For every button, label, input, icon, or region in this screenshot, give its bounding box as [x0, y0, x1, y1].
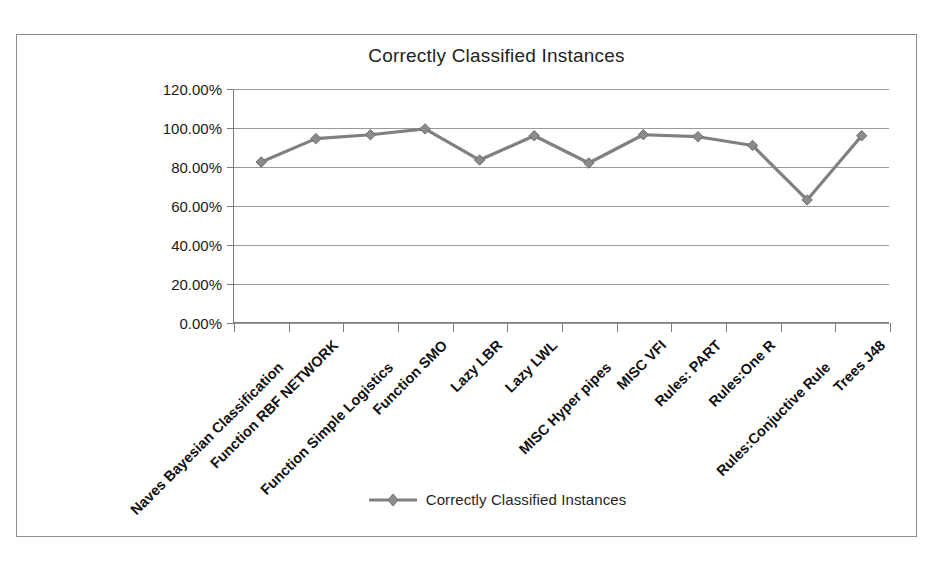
x-axis-tick	[890, 323, 891, 332]
chart-legend: Correctly Classified Instances	[17, 491, 916, 508]
x-axis-tick	[289, 323, 290, 332]
chart-frame: Correctly Classified Instances 120.00%10…	[16, 34, 917, 537]
x-axis-tick	[453, 323, 454, 332]
x-axis-tick	[234, 323, 235, 332]
y-axis-tick	[227, 128, 234, 129]
x-axis-label-11: Trees J48	[830, 337, 888, 395]
y-axis-tick	[227, 167, 234, 168]
x-axis-tick	[617, 323, 618, 332]
data-point-marker	[311, 133, 321, 143]
y-axis-label: 60.00%	[171, 198, 222, 215]
x-axis-label-1: Function RBF NETWORK	[207, 337, 341, 471]
y-axis-tick	[227, 89, 234, 90]
y-axis-label: 20.00%	[171, 276, 222, 293]
x-axis-label-5: Lazy LWL	[501, 337, 560, 396]
plot-area: 120.00%100.00%80.00%60.00%40.00%20.00%0.…	[233, 89, 889, 323]
y-axis-tick	[227, 245, 234, 246]
plot-area-wrapper: 120.00%100.00%80.00%60.00%40.00%20.00%0.…	[233, 89, 889, 323]
y-axis-tick	[227, 323, 234, 324]
x-axis-tick	[507, 323, 508, 332]
legend-marker-icon	[367, 493, 419, 507]
x-axis-label-4: Lazy LBR	[447, 337, 505, 395]
y-axis-label: 40.00%	[171, 237, 222, 254]
x-axis-label-2: Function Simple Logistics	[257, 359, 396, 498]
y-axis-label: 80.00%	[171, 159, 222, 176]
x-axis-tick	[671, 323, 672, 332]
x-axis-tick	[726, 323, 727, 332]
y-axis-tick	[227, 284, 234, 285]
y-axis-label: 100.00%	[163, 120, 222, 137]
y-axis-tick	[227, 206, 234, 207]
x-axis-tick	[781, 323, 782, 332]
data-point-marker	[693, 132, 703, 142]
y-axis-label: 0.00%	[179, 315, 222, 332]
data-point-marker	[256, 157, 266, 167]
data-point-marker	[529, 131, 539, 141]
x-axis-tick	[562, 323, 563, 332]
x-axis-tick	[343, 323, 344, 332]
x-axis-tick	[835, 323, 836, 332]
chart-title: Correctly Classified Instances	[17, 45, 916, 67]
x-axis-tick	[398, 323, 399, 332]
data-series-correctly-classified-instances	[234, 89, 889, 323]
legend-label: Correctly Classified Instances	[426, 491, 627, 508]
series-polyline	[261, 129, 861, 200]
y-axis-label: 120.00%	[163, 81, 222, 98]
data-point-marker	[365, 130, 375, 140]
x-axis-label-7: MISC VFI	[614, 337, 670, 393]
